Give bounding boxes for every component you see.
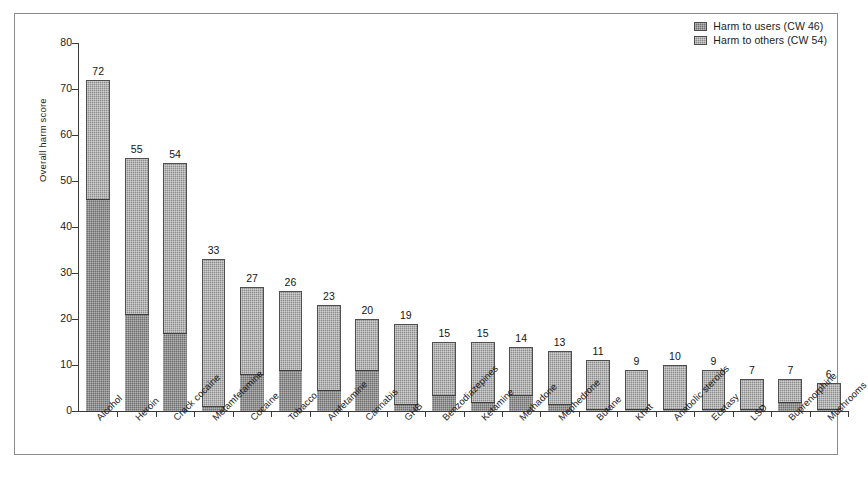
bar-group[interactable]: 15 xyxy=(432,43,456,411)
bar-value-label: 55 xyxy=(116,143,158,155)
y-axis-tick-label: 50 xyxy=(34,174,72,186)
x-axis-tick xyxy=(540,411,541,417)
bar-group[interactable]: 55 xyxy=(125,43,149,411)
y-axis-tick xyxy=(72,273,78,274)
bar-value-label: 26 xyxy=(270,276,312,288)
bar-group[interactable]: 54 xyxy=(163,43,187,411)
y-axis-tick xyxy=(72,135,78,136)
x-axis-tick xyxy=(733,411,734,417)
bar-group[interactable]: 9 xyxy=(625,43,649,411)
bar-harm-to-others[interactable] xyxy=(355,319,379,411)
plot-area: Overall harm score 01020304050607080 725… xyxy=(15,14,837,454)
bar-value-label: 33 xyxy=(193,244,235,256)
bar-harm-to-users[interactable] xyxy=(125,314,149,411)
bar-value-label: 14 xyxy=(500,332,542,344)
x-axis-tick xyxy=(310,411,311,417)
bar-value-label: 15 xyxy=(423,327,465,339)
bar-group[interactable]: 14 xyxy=(509,43,533,411)
bar-value-label: 27 xyxy=(231,272,273,284)
bar-harm-to-users[interactable] xyxy=(86,199,110,411)
bar-value-label: 72 xyxy=(77,65,119,77)
bar-group[interactable]: 6 xyxy=(817,43,841,411)
bar-group[interactable]: 19 xyxy=(394,43,418,411)
bar-series-group: 72555433272623201915151413119109776 xyxy=(79,43,848,411)
y-axis-tick xyxy=(72,365,78,366)
figure-frame: Harm to users (CW 46) Harm to others (CW… xyxy=(14,13,838,455)
bar-group[interactable]: 27 xyxy=(240,43,264,411)
y-axis-tick-label: 20 xyxy=(34,312,72,324)
bar-group[interactable]: 11 xyxy=(586,43,610,411)
x-axis-tick xyxy=(694,411,695,417)
x-axis-tick xyxy=(579,411,580,417)
bar-value-label: 15 xyxy=(462,327,504,339)
bar-group[interactable]: 10 xyxy=(663,43,687,411)
bar-harm-to-others[interactable] xyxy=(125,158,149,411)
y-axis-tick-label: 0 xyxy=(34,404,72,416)
bar-group[interactable]: 26 xyxy=(279,43,303,411)
x-axis-tick xyxy=(848,411,849,417)
bar-harm-to-others[interactable] xyxy=(317,305,341,411)
y-axis-tick-label: 10 xyxy=(34,358,72,370)
bar-harm-to-others[interactable] xyxy=(394,324,418,411)
bar-harm-to-others[interactable] xyxy=(163,163,187,411)
bar-value-label: 10 xyxy=(654,350,696,362)
x-axis-tick xyxy=(387,411,388,417)
y-axis-title: Overall harm score xyxy=(37,98,48,182)
bar-value-label: 7 xyxy=(731,364,773,376)
bar-group[interactable]: 33 xyxy=(202,43,226,411)
x-axis-tick xyxy=(156,411,157,417)
x-axis-tick xyxy=(233,411,234,417)
y-axis-tick xyxy=(72,319,78,320)
y-axis-tick-label: 80 xyxy=(34,36,72,48)
bar-group[interactable]: 7 xyxy=(778,43,802,411)
bar-value-label: 13 xyxy=(539,336,581,348)
y-axis-tick xyxy=(72,181,78,182)
bar-group[interactable]: 7 xyxy=(740,43,764,411)
bar-harm-to-users[interactable] xyxy=(163,333,187,411)
x-axis-tick xyxy=(656,411,657,417)
bar-value-label: 54 xyxy=(154,148,196,160)
bar-group[interactable]: 15 xyxy=(471,43,495,411)
bar-group[interactable]: 20 xyxy=(355,43,379,411)
x-axis-tick xyxy=(194,411,195,417)
x-axis-tick xyxy=(464,411,465,417)
bar-group[interactable]: 9 xyxy=(702,43,726,411)
bar-value-label: 7 xyxy=(769,364,811,376)
bar-harm-to-others[interactable] xyxy=(86,80,110,411)
y-axis-tick xyxy=(72,89,78,90)
bar-value-label: 11 xyxy=(577,345,619,357)
y-axis-tick xyxy=(72,227,78,228)
bar-group[interactable]: 72 xyxy=(86,43,110,411)
bar-value-label: 9 xyxy=(616,355,658,367)
x-axis-tick xyxy=(502,411,503,417)
x-axis-tick xyxy=(810,411,811,417)
x-axis-tick xyxy=(617,411,618,417)
bar-harm-to-others[interactable] xyxy=(279,291,303,411)
y-axis-tick-label: 40 xyxy=(34,220,72,232)
x-axis-tick xyxy=(348,411,349,417)
bar-value-label: 19 xyxy=(385,309,427,321)
x-axis-tick xyxy=(771,411,772,417)
bar-group[interactable]: 13 xyxy=(548,43,572,411)
bar-group[interactable]: 23 xyxy=(317,43,341,411)
y-axis-tick-label: 60 xyxy=(34,128,72,140)
bar-value-label: 23 xyxy=(308,290,350,302)
x-axis-tick xyxy=(425,411,426,417)
bar-value-label: 20 xyxy=(346,304,388,316)
bar-value-label: 9 xyxy=(693,355,735,367)
x-axis-tick xyxy=(117,411,118,417)
y-axis-tick-label: 70 xyxy=(34,82,72,94)
x-axis-tick xyxy=(271,411,272,417)
y-axis-tick xyxy=(72,43,78,44)
y-axis-tick xyxy=(72,411,78,412)
y-axis-tick-label: 30 xyxy=(34,266,72,278)
